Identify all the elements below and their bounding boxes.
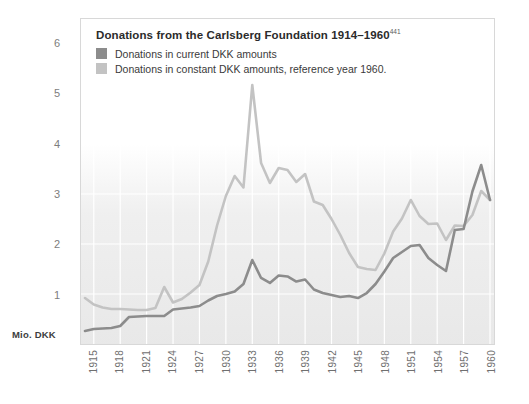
chart-legend: Donations from the Carlsberg Foundation … — [96, 28, 416, 78]
x-axis-tick-1915: 1915 — [88, 350, 99, 373]
chart-title-footnote: 441 — [390, 28, 401, 35]
x-axis-tick-1954: 1954 — [433, 350, 444, 373]
x-axis-labels: 1915191819211924192719301933193619391942… — [80, 350, 495, 402]
x-axis-tick-1957: 1957 — [459, 350, 470, 373]
legend-label-constant: Donations in constant DKK amounts, refer… — [115, 63, 386, 75]
chart-figure: 123456Mio. DKK 1915191819211924192719301… — [0, 0, 529, 404]
x-axis-tick-1960: 1960 — [486, 350, 497, 373]
x-axis-tick-1921: 1921 — [141, 350, 152, 373]
legend-item-constant: Donations in constant DKK amounts, refer… — [96, 63, 416, 75]
x-axis-tick-1933: 1933 — [247, 350, 258, 373]
y-axis-tick-5: 5 — [54, 87, 60, 99]
x-axis-tick-1924: 1924 — [167, 350, 178, 373]
x-axis-tick-1942: 1942 — [327, 350, 338, 373]
x-axis-tick-1945: 1945 — [353, 350, 364, 373]
x-axis-tick-1939: 1939 — [300, 350, 311, 373]
y-axis-tick-4: 4 — [54, 138, 60, 150]
y-axis-labels: 123456Mio. DKK — [0, 18, 72, 345]
x-axis-tick-1948: 1948 — [380, 350, 391, 373]
legend-label-current: Donations in current DKK amounts — [115, 48, 277, 60]
y-axis-tick-3: 3 — [54, 188, 60, 200]
y-axis-tick-1: 1 — [54, 289, 60, 301]
x-axis-tick-1927: 1927 — [194, 350, 205, 373]
y-axis-tick-2: 2 — [54, 238, 60, 250]
chart-title: Donations from the Carlsberg Foundation … — [96, 28, 416, 41]
y-axis-tick-6: 6 — [54, 37, 60, 49]
x-axis-tick-1936: 1936 — [274, 350, 285, 373]
x-axis-tick-1930: 1930 — [221, 350, 232, 373]
x-axis-tick-1951: 1951 — [406, 350, 417, 373]
x-axis-tick-1918: 1918 — [114, 350, 125, 373]
chart-title-text: Donations from the Carlsberg Foundation … — [96, 29, 390, 41]
y-axis-unit-label: Mio. DKK — [12, 329, 56, 340]
legend-item-current: Donations in current DKK amounts — [96, 48, 416, 60]
legend-swatch-current — [96, 48, 107, 59]
legend-swatch-constant — [96, 63, 107, 74]
